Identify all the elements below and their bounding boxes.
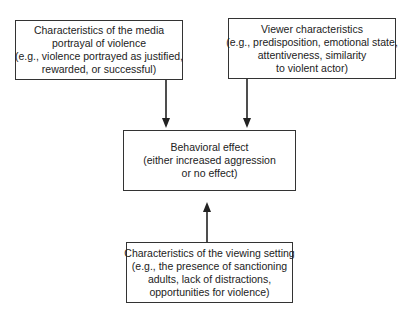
arrow-viewer-to-effect [243,79,251,128]
arrow-setting-to-effect [203,202,211,242]
arrows-layer [0,0,407,315]
arrow-media-to-effect [162,80,170,128]
